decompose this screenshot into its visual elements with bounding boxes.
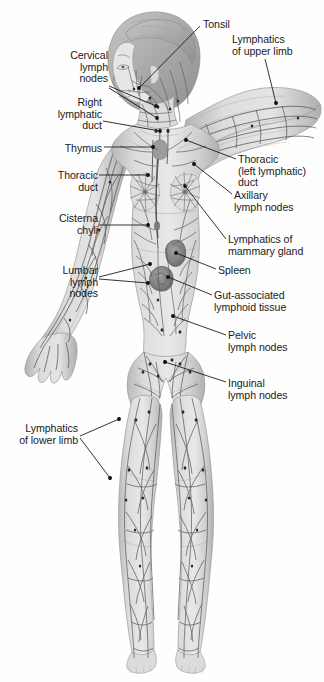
leader-endpoint-axillary-lymph-nodes <box>192 162 196 166</box>
label-axillary-lymph-nodes: Axillary lymph nodes <box>234 190 294 213</box>
label-inguinal-lymph-nodes: Inguinal lymph nodes <box>228 378 288 401</box>
label-cervical-lymph-nodes: Cervical lymph nodes <box>70 50 108 85</box>
leader-endpoint-cervical-lymph-nodes <box>155 116 159 120</box>
leader-line-lymphatics-lower-limb <box>80 419 119 436</box>
leader-line-lymphatics-lower-limb <box>80 438 110 478</box>
leader-endpoint-lymphatics-lower-limb <box>117 417 121 421</box>
label-spleen: Spleen <box>218 265 251 277</box>
label-thymus: Thymus <box>65 143 102 155</box>
label-lymphatics-lower-limb: Lymphatics of lower limb <box>19 423 78 446</box>
thymus-organ <box>153 140 168 160</box>
leader-endpoint-right-lymphatic-duct <box>158 129 162 133</box>
leader-endpoint-cisterna-chyli <box>146 223 150 227</box>
label-lymphatics-mammary-gland: Lymphatics of mammary gland <box>228 234 303 257</box>
leader-endpoint-thoracic-left-lymphatic-duct <box>184 138 188 142</box>
leader-endpoint-inguinal-lymph-nodes <box>163 360 167 364</box>
label-lymphatics-upper-limb: Lymphatics of upper limb <box>232 34 293 57</box>
leader-endpoint-lymphatics-upper-limb <box>274 101 278 105</box>
leader-endpoint-thoracic-duct <box>146 173 150 177</box>
legs <box>109 395 214 674</box>
label-thoracic-left-lymphatic-duct: Thoracic (left lymphatic) duct <box>238 154 306 189</box>
label-gut-associated-lymphoid-tissue: Gut-associated lymphoid tissue <box>214 290 286 313</box>
gut-lymphoid-organ <box>149 266 173 291</box>
leader-endpoint-pelvic-lymph-nodes <box>171 314 175 318</box>
torso <box>112 124 219 364</box>
leader-endpoint-lymphatics-lower-limb <box>108 476 112 480</box>
leader-endpoint-thymus <box>151 145 155 149</box>
leader-endpoint-lumbar-lymph-nodes <box>146 281 150 285</box>
label-pelvic-lymph-nodes: Pelvic lymph nodes <box>228 330 288 353</box>
leader-endpoint-spleen <box>174 251 178 255</box>
label-right-lymphatic-duct: Right lymphatic duct <box>58 97 102 132</box>
head-and-neck <box>108 12 200 129</box>
leader-endpoint-tonsil <box>137 86 141 90</box>
leader-endpoint-lymphatics-mammary-gland <box>183 184 187 188</box>
leader-endpoint-lumbar-lymph-nodes <box>148 262 152 266</box>
cisterna-chyli-marker <box>154 222 159 231</box>
label-thoracic-duct: Thoracic duct <box>58 170 98 193</box>
label-tonsil: Tonsil <box>203 19 230 31</box>
label-cisterna-chyli: Cisterna chyli <box>59 213 98 236</box>
leader-endpoint-gut-associated-lymphoid-tissue <box>166 275 170 279</box>
leader-endpoint-cervical-lymph-nodes <box>154 104 158 108</box>
label-lumbar-lymph-nodes: Lumbar lymph nodes <box>62 265 98 300</box>
